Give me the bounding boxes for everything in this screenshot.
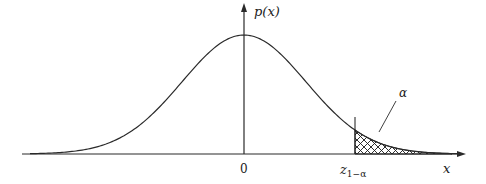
y-axis-arrow-icon (241, 3, 247, 12)
tail-area-alpha (355, 130, 452, 154)
origin-tick-label: 0 (240, 162, 248, 176)
tail-area-label: α (399, 86, 407, 100)
y-axis-label: p(x) (254, 4, 280, 19)
x-axis-label: x (443, 161, 451, 176)
normal-distribution-figure: p(x) 0 z1−α x α (0, 0, 486, 184)
alpha-leader-line (379, 101, 396, 132)
critical-value-label: z1−α (339, 162, 366, 179)
x-axis-arrow-icon (457, 151, 466, 157)
critical-value-main: z (339, 162, 347, 177)
critical-value-sub: 1−α (347, 169, 366, 179)
